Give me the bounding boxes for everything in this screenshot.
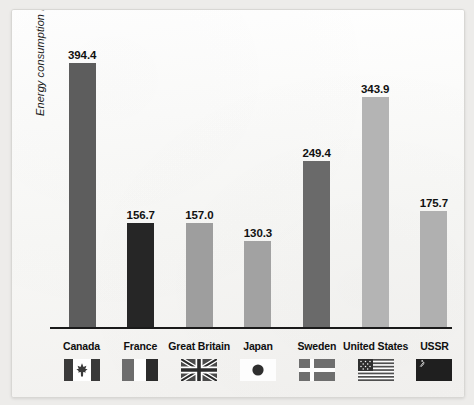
flag-sweden-icon bbox=[299, 359, 335, 381]
bar bbox=[69, 63, 96, 329]
bar bbox=[244, 241, 271, 329]
bar bbox=[362, 97, 389, 329]
plot-area: Energy consumption in Btu 394.4156.7157.… bbox=[50, 24, 448, 329]
bar-column: 249.4 bbox=[302, 24, 330, 329]
category-legend: Canada France Great Britain Japan Sweden… bbox=[68, 340, 448, 381]
x-axis-line bbox=[50, 327, 452, 329]
category-label: USSR bbox=[420, 340, 449, 352]
chart-panel: Energy consumption in Btu 394.4156.7157.… bbox=[11, 9, 465, 398]
flag-united-states-icon bbox=[358, 359, 394, 381]
legend-item: Canada bbox=[68, 340, 95, 381]
category-label: Japan bbox=[243, 340, 273, 352]
bar bbox=[303, 161, 330, 329]
bar bbox=[186, 223, 213, 329]
flag-canada-icon bbox=[64, 359, 100, 381]
bar-value-label: 157.0 bbox=[185, 209, 213, 221]
flag-france-icon bbox=[122, 359, 158, 381]
page-root: Energy consumption in Btu 394.4156.7157.… bbox=[0, 0, 474, 405]
legend-item: Sweden bbox=[303, 340, 330, 381]
legend-item: Japan bbox=[244, 340, 271, 381]
bar-column: 343.9 bbox=[361, 24, 389, 329]
flag-ussr-icon bbox=[416, 359, 452, 381]
bar-value-label: 130.3 bbox=[244, 227, 272, 239]
bar-value-label: 343.9 bbox=[361, 83, 389, 95]
legend-item: France bbox=[127, 340, 154, 381]
bar-group: 394.4156.7157.0130.3249.4343.9175.7 bbox=[68, 24, 448, 329]
bar-column: 394.4 bbox=[68, 24, 96, 329]
bar-value-label: 175.7 bbox=[420, 197, 448, 209]
legend-item: USSR bbox=[421, 340, 448, 381]
bar-column: 130.3 bbox=[244, 24, 272, 329]
bar-column: 156.7 bbox=[127, 24, 155, 329]
bar-value-label: 156.7 bbox=[127, 209, 155, 221]
category-label: Canada bbox=[63, 340, 100, 352]
bar bbox=[127, 223, 154, 329]
category-label: United States bbox=[343, 340, 408, 352]
flag-japan-icon bbox=[240, 359, 276, 381]
bar-column: 157.0 bbox=[185, 24, 213, 329]
category-label: Great Britain bbox=[168, 340, 230, 352]
flag-great-britain-icon bbox=[181, 359, 217, 381]
bar-column: 175.7 bbox=[420, 24, 448, 329]
legend-item: United States bbox=[362, 340, 389, 381]
bar-value-label: 394.4 bbox=[68, 49, 96, 61]
category-label: France bbox=[124, 340, 158, 352]
bar-value-label: 249.4 bbox=[302, 147, 330, 159]
category-label: Sweden bbox=[297, 340, 336, 352]
legend-item: Great Britain bbox=[186, 340, 213, 381]
y-axis-label: Energy consumption in Btu bbox=[34, 9, 46, 116]
bar bbox=[420, 211, 447, 329]
